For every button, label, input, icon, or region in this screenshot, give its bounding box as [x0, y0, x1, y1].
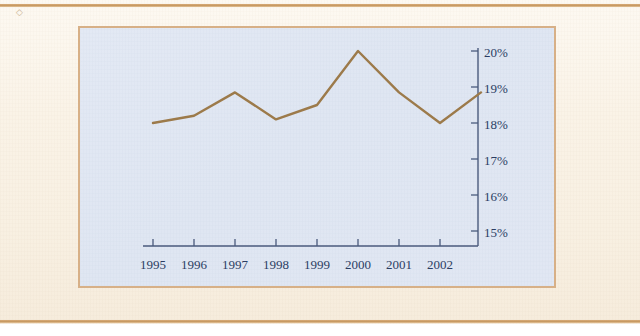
x-tick-label-1998: 1998: [253, 257, 299, 273]
top-rule-divider: [0, 4, 640, 7]
chart-tick-marks: [153, 51, 478, 246]
x-tick-label-2000: 2000: [335, 257, 381, 273]
x-tick-label-1995: 1995: [130, 257, 176, 273]
y-tick-label-18: 18%: [484, 117, 508, 133]
x-tick-label-1999: 1999: [294, 257, 340, 273]
data-series-line: [153, 51, 481, 123]
y-tick-label-19: 19%: [484, 81, 508, 97]
y-tick-label-16: 16%: [484, 189, 508, 205]
x-tick-label-1997: 1997: [212, 257, 258, 273]
y-tick-label-20: 20%: [484, 45, 508, 61]
chart-axes: [143, 48, 478, 246]
x-tick-label-2002: 2002: [417, 257, 463, 273]
x-tick-label-2001: 2001: [376, 257, 422, 273]
x-tick-label-1996: 1996: [171, 257, 217, 273]
y-tick-label-15: 15%: [484, 225, 508, 241]
line-chart-plot: [80, 28, 554, 286]
margin-mark-icon: ◇: [16, 9, 23, 16]
line-chart-panel: 20% 19% 18% 17% 16% 15% 1995 1996 1997 1…: [78, 26, 556, 288]
chart-page: ◇ 20% 19% 18% 17% 16% 15% 1995 1996 1997…: [0, 0, 640, 336]
bottom-rule-divider: [0, 320, 640, 323]
y-tick-label-17: 17%: [484, 153, 508, 169]
